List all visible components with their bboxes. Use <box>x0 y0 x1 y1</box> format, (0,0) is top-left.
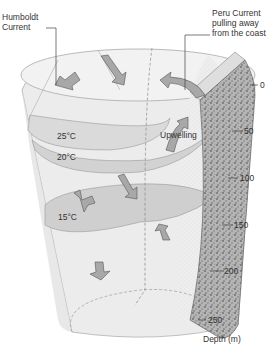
isotherm-20-label: 20°C <box>57 152 76 162</box>
peru-line-2: pulling away <box>212 18 266 28</box>
isotherm-25-label: 25°C <box>57 131 76 141</box>
humboldt-line-2: Current <box>2 22 38 32</box>
isotherm-15-label: 15°C <box>58 212 77 222</box>
depth-tick-150: 150 <box>234 220 248 230</box>
depth-tick-100: 100 <box>240 173 254 183</box>
upwelling-label: Upwelling <box>160 130 197 140</box>
peru-line-1: Peru Current <box>212 8 266 18</box>
depth-tick-250: 250 <box>208 315 222 325</box>
peru-line-3: from the coast <box>212 28 266 38</box>
depth-axis-label: Depth (m) <box>203 334 241 344</box>
ocean-upwelling-diagram <box>0 0 277 361</box>
depth-tick-0: 0 <box>260 80 265 90</box>
humboldt-line-1: Humboldt <box>2 12 38 22</box>
depth-tick-50: 50 <box>244 126 253 136</box>
depth-tick-200: 200 <box>224 266 238 276</box>
peru-current-label: Peru Current pulling away from the coast <box>212 8 266 38</box>
humboldt-current-label: Humboldt Current <box>2 12 38 32</box>
